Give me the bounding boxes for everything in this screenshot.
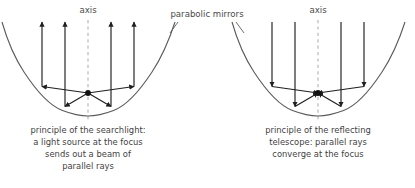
mirrors-label-group: parabolic mirrors	[170, 9, 244, 33]
caption-right-line-2: telescope: parallel rays	[269, 137, 367, 147]
caption-left-line-3: sends out a beam of	[45, 149, 132, 159]
focus-ray-3	[88, 93, 111, 107]
diagram-canvas: parabolic mirrors axis pr	[0, 0, 415, 188]
parabola-curve-left	[2, 22, 175, 116]
axis-label-right: axis	[309, 5, 327, 15]
parabolic-mirror-figure: parabolic mirrors axis pr	[0, 0, 415, 188]
converging-ray-3	[318, 93, 341, 107]
caption-right-line-3: converge at the focus	[272, 149, 363, 159]
focus-point-right	[315, 90, 321, 96]
leader-line-right	[236, 22, 244, 33]
axis-label-left: axis	[79, 5, 97, 15]
caption-left-line-2: a light source at the focus	[33, 137, 142, 147]
parabola-curve-right	[232, 22, 405, 116]
focus-point-left	[85, 90, 91, 96]
caption-right-line-1: principle of the reflecting	[265, 125, 371, 135]
caption-left-line-4: parallel rays	[62, 161, 114, 171]
panel-searchlight: axis principle of the searchlight: a lig…	[2, 5, 175, 171]
focus-ray-2	[65, 93, 88, 107]
panel-reflecting-telescope: axis principle of the reflecting telesco…	[232, 5, 405, 159]
parabolic-mirrors-label: parabolic mirrors	[170, 9, 244, 19]
caption-left-line-1: principle of the searchlight:	[30, 125, 145, 135]
converging-ray-2	[295, 93, 318, 107]
